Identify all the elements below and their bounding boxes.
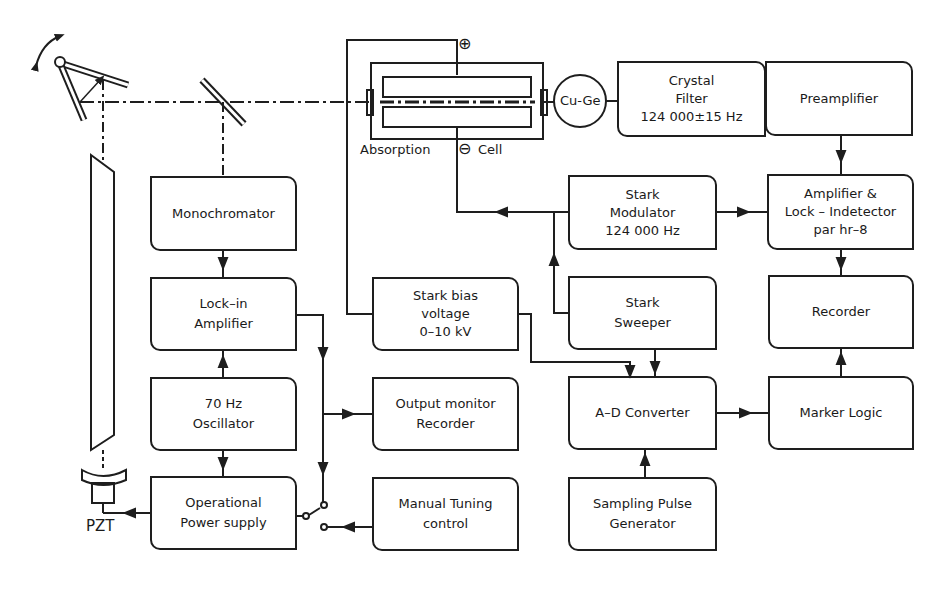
- block-label: Amplifier: [194, 314, 253, 334]
- marker-logic-block: Marker Logic: [768, 376, 914, 450]
- cell-label: Cell: [478, 142, 502, 157]
- manual-tuning-block: Manual Tuning control: [372, 477, 519, 551]
- laser-tube-icon: [91, 155, 114, 450]
- block-label: Sweeper: [614, 313, 670, 333]
- block-label: Output monitor: [395, 394, 495, 414]
- block-label: Monochromator: [172, 204, 275, 224]
- block-label: Power supply: [180, 513, 266, 533]
- recorder-block: Recorder: [768, 275, 914, 349]
- minus-electrode-icon: ⊖: [458, 139, 471, 158]
- crystal-filter-block: Crystal Filter 124 000±15 Hz: [617, 61, 766, 137]
- block-label: Oscillator: [193, 414, 254, 434]
- block-label: voltage: [421, 305, 470, 323]
- block-label: Preamplifier: [800, 89, 878, 109]
- sampling-pulse-block: Sampling Pulse Generator: [568, 477, 717, 551]
- block-label: Lock–in: [200, 294, 248, 314]
- block-label: Marker Logic: [799, 403, 882, 423]
- stark-sweeper-block: Stark Sweeper: [568, 276, 717, 350]
- block-label: Manual Tuning: [399, 494, 493, 514]
- block-label: Lock – Indetector: [785, 203, 896, 221]
- block-label: Generator: [609, 514, 675, 534]
- stark-bias-block: Stark bias voltage 0–10 kV: [372, 277, 519, 351]
- block-label: Crystal: [669, 72, 715, 90]
- plus-electrode-icon: ⊕: [458, 34, 471, 53]
- lockin-amplifier-block: Lock–in Amplifier: [150, 277, 297, 351]
- stark-modulator-block: Stark Modulator 124 000 Hz: [568, 175, 717, 250]
- block-label: A–D Converter: [595, 403, 689, 423]
- block-label: 124 000±15 Hz: [641, 108, 743, 126]
- monochromator-block: Monochromator: [150, 176, 297, 251]
- block-label: Stark: [625, 186, 659, 204]
- block-label: Stark: [625, 293, 659, 313]
- block-label: 124 000 Hz: [605, 222, 680, 240]
- power-supply-block: Operational Power supply: [150, 476, 297, 550]
- block-label: Operational: [185, 493, 261, 513]
- block-label: Amplifier &: [804, 185, 877, 203]
- pzt-label: PZT: [86, 517, 114, 535]
- absorption-label: Absorption: [360, 142, 430, 157]
- output-monitor-block: Output monitor Recorder: [372, 377, 519, 451]
- block-label: 0–10 kV: [420, 323, 472, 341]
- oscillator-block: 70 Hz Oscillator: [150, 377, 297, 451]
- block-label: par hr–8: [813, 221, 867, 239]
- block-label: Modulator: [610, 204, 676, 222]
- block-label: Recorder: [812, 302, 870, 322]
- block-label: Filter: [675, 90, 707, 108]
- block-label: Sampling Pulse: [593, 494, 692, 514]
- block-label: 70 Hz: [205, 394, 242, 414]
- block-label: Stark bias: [413, 287, 478, 305]
- grating-icon: [36, 36, 128, 120]
- detector-label: Cu-Ge: [560, 93, 601, 108]
- ad-converter-block: A–D Converter: [568, 376, 717, 450]
- block-label: control: [423, 514, 468, 534]
- amplifier-lock-in-detector-block: Amplifier & Lock – Indetector par hr–8: [767, 174, 914, 250]
- block-label: Recorder: [416, 414, 474, 434]
- preamplifier-block: Preamplifier: [765, 61, 913, 136]
